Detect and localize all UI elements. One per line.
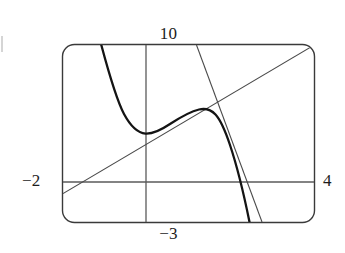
y-max-label: 10 [0, 25, 341, 42]
y-min-label: −3 [0, 225, 341, 242]
viewing-window-frame [63, 45, 315, 223]
tangent-line-at-minimum [63, 45, 314, 193]
tangent-line-at-descent [197, 45, 263, 222]
x-min-label: −2 [22, 172, 41, 189]
x-max-label: 4 [323, 172, 332, 189]
graph-figure: 10 −2 4 −3 [0, 0, 345, 253]
function-curve [101, 45, 249, 222]
